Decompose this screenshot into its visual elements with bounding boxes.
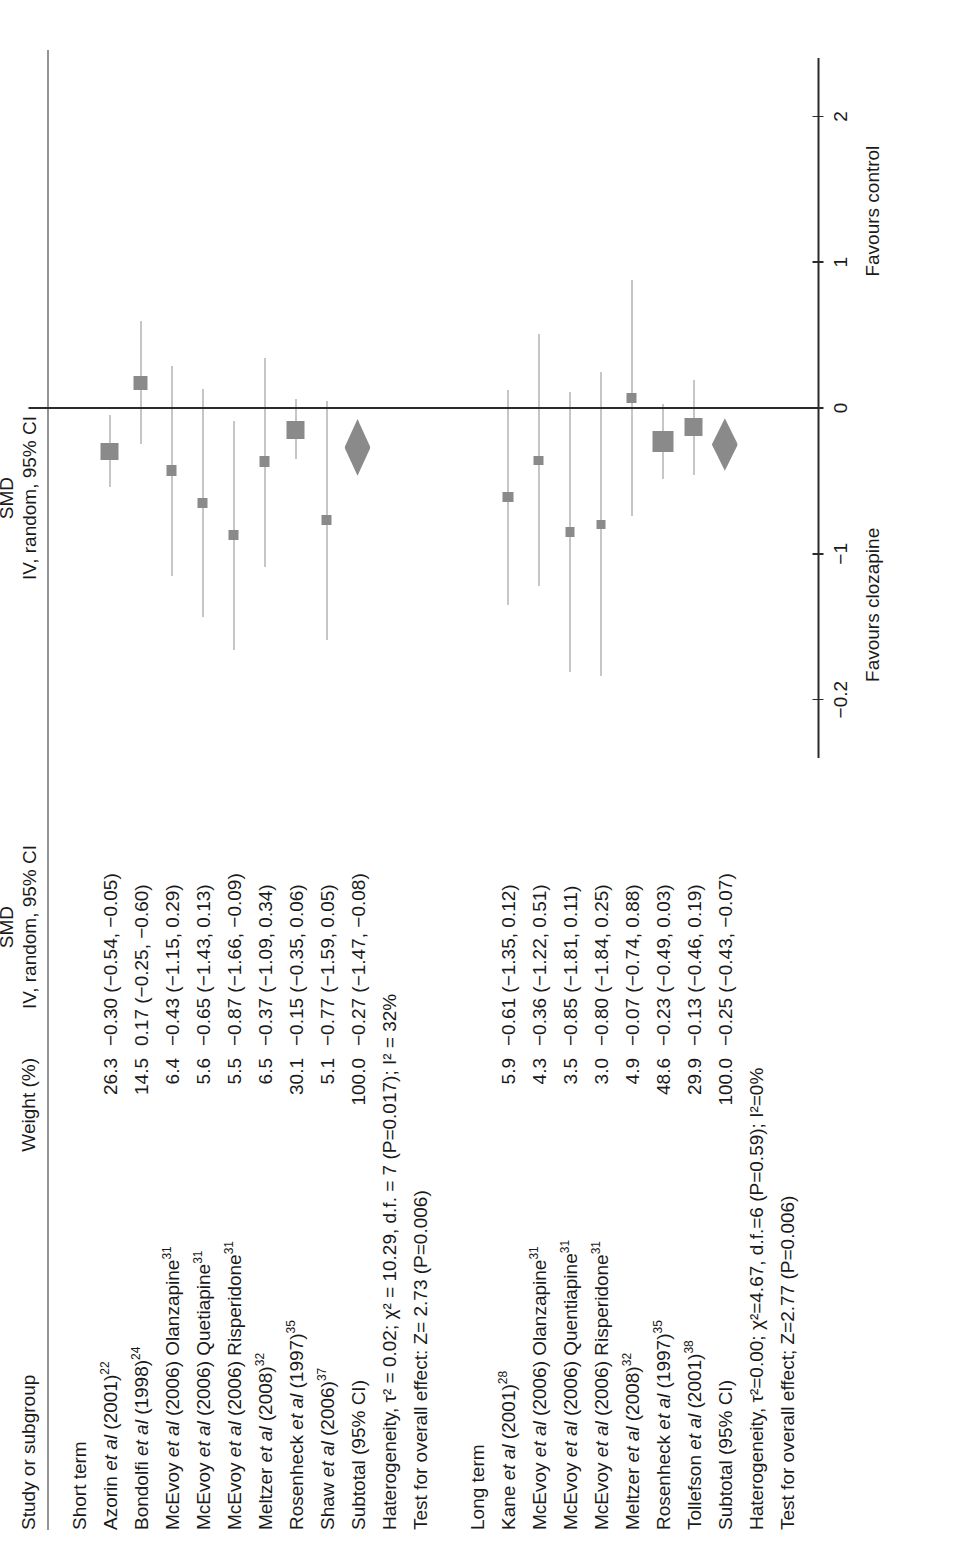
row-weight: 26.3 — [99, 1058, 120, 1198]
row-label-study: Bondolfi et al (1998)24 — [130, 1200, 151, 1530]
effect-size-box — [100, 443, 117, 460]
column-header-study: Study or subgroup — [16, 1200, 39, 1530]
row-smd-ci: −0.77 (−1.59, 0.05) — [316, 808, 337, 1046]
effect-size-box — [286, 421, 304, 439]
effect-size-box — [533, 456, 543, 466]
effect-size-box — [684, 418, 702, 436]
row-smd-ci: −0.25 (−0.43, −0.07) — [714, 808, 735, 1046]
row-label-study: Kane et al (2001)28 — [497, 1200, 518, 1530]
axis-tick-label: 2 — [829, 76, 851, 156]
favours-control-label: Favours control — [861, 146, 883, 277]
effect-size-box — [228, 530, 239, 541]
row-weight: 3.0 — [590, 1058, 611, 1198]
row-weight: 6.4 — [161, 1058, 182, 1198]
axis-tick-label: −0.2 — [829, 660, 851, 740]
row-weight: 4.3 — [528, 1058, 549, 1198]
effect-size-box — [197, 498, 208, 509]
row-label-study: McEvoy et al (2006) Risperidone31 — [590, 1200, 611, 1530]
row-smd-ci: −0.15 (−0.35, 0.06) — [285, 808, 306, 1046]
row-label-study: Rosenheck et al (1997)35 — [652, 1200, 673, 1530]
effect-size-box — [502, 492, 513, 503]
row-smd-ci: −0.61 (−1.35, 0.12) — [497, 808, 518, 1046]
axis-tick-label: −1 — [829, 514, 851, 594]
heterogeneity-text: Haterogeneity, τ² = 0.02; χ² = 10.29, d.… — [378, 994, 399, 1530]
effect-size-box — [626, 393, 636, 403]
subtotal-diamond — [344, 419, 370, 476]
column-header-weight: Weight (%) — [16, 1058, 39, 1198]
row-label-study: Tollefson et al (2001)38 — [683, 1200, 704, 1530]
subtotal-diamond — [711, 418, 737, 471]
row-label-study: McEvoy et al (2006) Quentiapine31 — [559, 1200, 580, 1530]
row-weight: 5.9 — [497, 1058, 518, 1198]
row-smd-ci: −0.23 (−0.49, 0.03) — [652, 808, 673, 1046]
row-label-subtotal: Subtotal (95% CI) — [714, 1200, 735, 1530]
axis-tick-label: 1 — [829, 222, 851, 302]
row-weight: 30.1 — [285, 1058, 306, 1198]
effect-size-box — [565, 527, 574, 536]
row-weight: 100.0 — [714, 1058, 735, 1198]
axis-tick — [812, 116, 823, 117]
zero-reference-line — [28, 407, 817, 409]
row-weight: 100.0 — [347, 1058, 368, 1198]
row-weight: 48.6 — [652, 1058, 673, 1198]
row-smd-ci: −0.87 (−1.66, −0.09) — [223, 808, 244, 1046]
row-label-study: McEvoy et al (2006) Olanzapine31 — [528, 1200, 549, 1530]
row-smd-ci: −0.37 (−1.09, 0.34) — [254, 808, 275, 1046]
row-label-study: Azorin et al (2001)22 — [99, 1200, 120, 1530]
effect-size-box — [596, 520, 605, 529]
forest-plot-figure: Study or subgroup Weight (%) SMD IV, ran… — [0, 0, 953, 1558]
overall-effect-text: Test for overall effect; Z=2.77 (P=0.006… — [776, 1196, 797, 1530]
row-smd-ci: −0.36 (−1.22, 0.51) — [528, 808, 549, 1046]
effect-size-box — [259, 456, 270, 467]
group-label-short-term: Short term — [68, 1200, 89, 1530]
effect-size-box — [166, 465, 177, 476]
effect-size-box — [652, 431, 673, 452]
row-smd-ci: −0.30 (−0.54, −0.05) — [99, 808, 120, 1046]
row-label-study: Rosenheck et al (1997)35 — [285, 1200, 306, 1530]
row-smd-ci: −0.43 (−1.15, 0.29) — [161, 808, 182, 1046]
heterogeneity-text: Haterogeneity, τ²=0.00; χ²=4.67, d.f.=6 … — [745, 1068, 766, 1530]
effect-size-box — [321, 515, 331, 525]
column-header-smd-line2: IV, random, 95% CI — [17, 808, 40, 1046]
row-smd-ci: −0.65 (−1.43, 0.13) — [192, 808, 213, 1046]
row-weight: 3.5 — [559, 1058, 580, 1198]
row-label-study: McEvoy et al (2006) Risperidone31 — [223, 1200, 244, 1530]
axis-tick — [812, 261, 823, 262]
row-smd-ci: −0.85 (−1.81, 0.11) — [559, 808, 580, 1046]
effect-size-box — [133, 376, 147, 390]
row-smd-ci: −0.13 (−0.46, 0.19) — [683, 808, 704, 1046]
row-weight: 6.5 — [254, 1058, 275, 1198]
row-smd-ci: −0.27 (−1.47, −0.08) — [347, 808, 368, 1046]
row-smd-ci: −0.07 (−0.74, 0.88) — [621, 808, 642, 1046]
favours-clozapine-label: Favours clozapine — [861, 528, 883, 682]
row-smd-ci: 0.17 (−0.25, −0.60) — [130, 808, 151, 1046]
row-label-study: McEvoy et al (2006) Olanzapine31 — [161, 1200, 182, 1530]
row-label-study: Shaw et al (2006)37 — [316, 1200, 337, 1530]
axis-tick-label: 0 — [829, 368, 851, 448]
row-label-study: Meltzer et al (2008)32 — [621, 1200, 642, 1530]
row-weight: 14.5 — [130, 1058, 151, 1198]
group-label-long-term: Long term — [466, 1200, 487, 1530]
plot-area: −0.2−1012Favours clozapineFavours contro… — [0, 58, 953, 758]
axis-tick — [812, 699, 823, 700]
row-label-subtotal: Subtotal (95% CI) — [347, 1200, 368, 1530]
row-label-study: McEvoy et al (2006) Quetiapine31 — [192, 1200, 213, 1530]
row-weight: 4.9 — [621, 1058, 642, 1198]
row-weight: 5.1 — [316, 1058, 337, 1198]
row-weight: 29.9 — [683, 1058, 704, 1198]
column-header-smd-line1: SMD — [0, 808, 17, 1046]
row-smd-ci: −0.80 (−1.84, 0.25) — [590, 808, 611, 1046]
figure-stage: Study or subgroup Weight (%) SMD IV, ran… — [0, 0, 953, 1558]
row-label-study: Meltzer et al (2008)32 — [254, 1200, 275, 1530]
overall-effect-text: Test for overall effect: Z= 2.73 (P=0.00… — [409, 1190, 430, 1530]
row-weight: 5.6 — [192, 1058, 213, 1198]
axis-tick — [812, 553, 823, 554]
row-weight: 5.5 — [223, 1058, 244, 1198]
